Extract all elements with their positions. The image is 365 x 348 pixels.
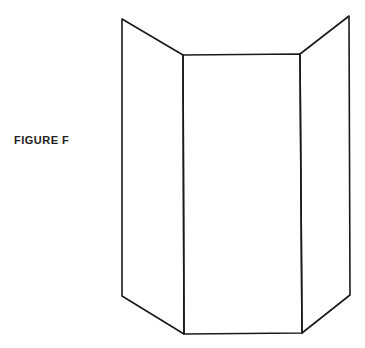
right-panel — [300, 16, 350, 333]
folding-screen-diagram — [0, 0, 365, 348]
left-panel — [122, 19, 184, 334]
center-panel — [183, 54, 302, 334]
